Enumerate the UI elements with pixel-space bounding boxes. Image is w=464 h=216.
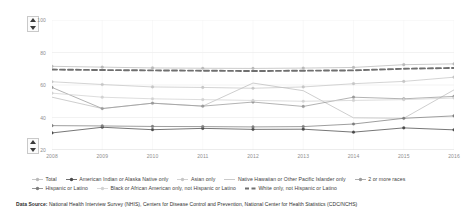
- series-point: [151, 67, 154, 70]
- legend-marker-icon: [355, 176, 366, 183]
- legend-item[interactable]: American Indian or Alaska Native only: [66, 176, 169, 183]
- legend-marker-icon: [97, 185, 108, 192]
- series-point: [201, 86, 204, 89]
- legend-marker-icon: [32, 176, 43, 183]
- series-point: [151, 102, 154, 105]
- triangle-down-icon[interactable]: [30, 26, 36, 30]
- series-point: [302, 67, 305, 70]
- series-point: [453, 129, 454, 132]
- x-tick-label: 2011: [188, 153, 218, 159]
- legend-label: 2 or more races: [368, 177, 405, 182]
- series-point: [52, 124, 53, 127]
- series-point: [402, 80, 405, 83]
- x-tick-label: 2015: [389, 153, 419, 159]
- legend-label: Total: [46, 177, 57, 182]
- series-point: [352, 82, 355, 85]
- legend-item[interactable]: Black or African American only, not Hisp…: [97, 185, 236, 192]
- legend-marker-icon: [177, 176, 188, 183]
- x-tick-label: 2010: [138, 153, 168, 159]
- series-point: [252, 126, 255, 129]
- series-point: [252, 67, 255, 70]
- legend-item[interactable]: White only, not Hispanic or Latino: [245, 185, 337, 192]
- series-point: [402, 98, 405, 101]
- series-point: [101, 83, 104, 86]
- series-point: [52, 132, 53, 135]
- legend-label: Asian only: [191, 177, 215, 182]
- legend-label: Native Hawaiian or Other Pacific Islande…: [238, 177, 346, 182]
- series-point: [402, 117, 405, 120]
- series-point: [453, 97, 454, 100]
- series-point: [101, 96, 104, 99]
- series-point: [302, 105, 305, 108]
- series-point: [352, 123, 355, 126]
- series-point: [151, 86, 154, 89]
- series-point: [352, 131, 355, 134]
- data-source-text: National Health Interview Survey (NHIS),…: [47, 201, 357, 207]
- series-point: [302, 86, 305, 89]
- line-chart-svg: [52, 20, 454, 150]
- y-tick-label: 80: [30, 50, 46, 56]
- series-point: [201, 67, 204, 70]
- chart-page: percent 20406080100 20082009201020112012…: [0, 0, 464, 216]
- y-tick-label: 100: [30, 17, 46, 23]
- series-point: [201, 125, 204, 128]
- series-point: [101, 107, 104, 110]
- legend-item[interactable]: Native Hawaiian or Other Pacific Islande…: [224, 176, 345, 183]
- legend-label: Black or African American only, not Hisp…: [110, 186, 235, 191]
- series-point: [453, 63, 454, 66]
- series-point: [201, 105, 204, 108]
- series-point: [151, 97, 154, 100]
- legend-row-2: Hispanic or LatinoBlack or African Ameri…: [32, 184, 452, 193]
- series-point: [402, 127, 405, 130]
- legend-row-1: TotalAmerican Indian or Alaska Native on…: [32, 175, 452, 184]
- legend-marker-icon: [245, 185, 256, 192]
- series-point: [302, 100, 305, 103]
- data-source-note: Data Source: National Health Interview S…: [16, 201, 357, 207]
- series-point: [453, 115, 454, 118]
- series-point: [151, 125, 154, 128]
- chart-plot-area: [52, 20, 454, 150]
- series-point: [352, 96, 355, 99]
- legend-marker-icon: [32, 185, 43, 192]
- legend-label: American Indian or Alaska Native only: [79, 177, 168, 182]
- legend-label: White only, not Hispanic or Latino: [258, 186, 337, 191]
- series-point: [252, 99, 255, 102]
- series-point: [101, 125, 104, 128]
- x-tick-label: 2012: [238, 153, 268, 159]
- legend-label: Hispanic or Latino: [46, 186, 88, 191]
- series-point: [352, 99, 355, 102]
- series-point: [352, 66, 355, 69]
- y-tick-label: 60: [30, 82, 46, 88]
- legend-item[interactable]: Asian only: [177, 176, 215, 183]
- chart-legend: TotalAmerican Indian or Alaska Native on…: [32, 175, 452, 193]
- x-tick-label: 2009: [87, 153, 117, 159]
- legend-item[interactable]: 2 or more races: [355, 176, 406, 183]
- series-point: [201, 98, 204, 101]
- legend-marker-icon: [66, 176, 77, 183]
- x-tick-label: 2016: [439, 153, 464, 159]
- data-source-label: Data Source:: [16, 201, 47, 207]
- series-point: [453, 76, 454, 79]
- legend-item[interactable]: Total: [32, 176, 57, 183]
- series-point: [151, 128, 154, 131]
- series-point: [302, 125, 305, 128]
- x-tick-label: 2013: [288, 153, 318, 159]
- series-point: [52, 92, 53, 95]
- series-point: [52, 86, 53, 89]
- legend-item[interactable]: Hispanic or Latino: [32, 185, 88, 192]
- series-point: [402, 63, 405, 66]
- x-tick-label: 2008: [37, 153, 67, 159]
- legend-marker-icon: [224, 176, 235, 183]
- series-point: [302, 128, 305, 131]
- series-point: [101, 66, 104, 69]
- series-point: [252, 87, 255, 90]
- series-point: [52, 80, 53, 83]
- series-point: [52, 65, 53, 68]
- y-tick-label: 40: [30, 115, 46, 121]
- triangle-up-icon[interactable]: [30, 140, 36, 144]
- x-tick-label: 2014: [339, 153, 369, 159]
